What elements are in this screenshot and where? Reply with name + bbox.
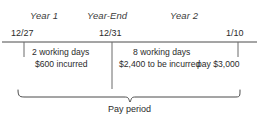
pay-period-label: Pay period [0,104,259,114]
segment-2-working-days: 8 working days [133,47,190,57]
payroll-timeline-diagram: Year 1 Year-End Year 2 12/27 12/31 1/10 … [0,0,259,123]
payment-amount-label: pay $3,000 [197,59,240,69]
segment-2-amount: $2,400 to be incurred [119,59,200,69]
segment-1-amount: $600 incurred [35,59,88,69]
segment-1-working-days: 2 working days [32,47,89,57]
pay-period-brace [18,90,240,102]
